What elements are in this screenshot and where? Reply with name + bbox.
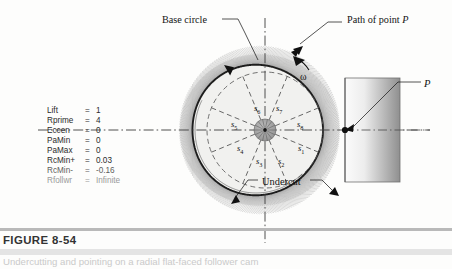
station-label-s5: s5 <box>231 119 237 131</box>
station-label-subscript: 3 <box>259 161 262 168</box>
parameter-equals: = <box>85 126 96 136</box>
parameter-name: RcMin- <box>47 166 85 176</box>
parameter-value: 0 <box>96 136 120 146</box>
parameter-name: Rprime <box>47 116 85 126</box>
parameter-value: 0 <box>96 146 120 156</box>
station-label-s1: s1 <box>298 143 304 155</box>
parameter-name: RcMin+ <box>47 156 85 166</box>
caption-rule <box>0 228 452 231</box>
parameter-table: Lift=1Rprime=4Eccen=0PaMin=0PaMax=0RcMin… <box>47 106 120 186</box>
parameter-name: Eccen <box>47 126 85 136</box>
point-p-label: P <box>424 78 430 89</box>
figure-caption-text: Undercutting and pointing on a radial fl… <box>3 256 303 267</box>
parameter-equals: = <box>85 166 96 176</box>
undercut-label: Undercut <box>262 176 301 187</box>
parameter-name: PaMin <box>47 136 85 146</box>
parameter-value: -0.16 <box>96 166 120 176</box>
parameter-equals: = <box>85 156 96 166</box>
leader-path-of-point <box>300 22 342 44</box>
parameter-equals: = <box>85 136 96 146</box>
parameter-name: Lift <box>47 106 85 116</box>
station-label-subscript: 1 <box>301 148 304 155</box>
station-label-s8: s8 <box>297 119 303 131</box>
cam-parameter-list: Lift=1Rprime=4Eccen=0PaMin=0PaMax=0RcMin… <box>47 86 120 207</box>
parameter-value: 0 <box>96 126 120 136</box>
parameter-row: RcMin-=-0.16 <box>47 166 120 176</box>
base-circle-label: Base circle <box>162 14 207 25</box>
parameter-row: RcMin+=0.03 <box>47 156 120 166</box>
path-of-point-text: Path of point <box>347 14 402 25</box>
parameter-row: Rfollwr=Infinite <box>47 176 120 186</box>
path-of-point-label: Path of point P <box>347 14 408 25</box>
station-label-subscript: 6 <box>257 108 260 115</box>
parameter-value: 1 <box>96 106 120 116</box>
parameter-equals: = <box>85 146 96 156</box>
parameter-row: Rprime=4 <box>47 116 120 126</box>
station-label-subscript: 4 <box>240 148 243 155</box>
parameter-value: Infinite <box>96 176 120 186</box>
station-label-subscript: 8 <box>300 124 303 131</box>
cam-figure: Lift=1Rprime=4Eccen=0PaMin=0PaMax=0RcMin… <box>0 0 452 269</box>
caption-band <box>0 249 452 255</box>
parameter-row: PaMin=0 <box>47 136 120 146</box>
parameter-equals: = <box>85 106 96 116</box>
figure-caption-label: FIGURE 8-54 <box>3 234 76 246</box>
station-label-s3: s3 <box>256 156 262 168</box>
parameter-value: 4 <box>96 116 120 126</box>
parameter-name: PaMax <box>47 146 85 156</box>
station-label-s6: s6 <box>254 103 260 115</box>
parameter-equals: = <box>85 116 96 126</box>
parameter-value: 0.03 <box>96 156 120 166</box>
station-label-subscript: 5 <box>234 124 237 131</box>
cam-center-point <box>263 128 267 132</box>
parameter-row: Eccen=0 <box>47 126 120 136</box>
omega-label: ω <box>300 71 307 82</box>
parameter-row: Lift=1 <box>47 106 120 116</box>
path-of-point-italic-p: P <box>402 14 408 25</box>
station-label-s2: s2 <box>278 156 284 168</box>
station-label-s4: s4 <box>237 143 243 155</box>
station-label-s7: s7 <box>276 103 282 115</box>
parameter-name: Rfollwr <box>47 176 85 186</box>
station-label-subscript: 2 <box>281 161 284 168</box>
station-label-subscript: 7 <box>279 108 282 115</box>
parameter-row: PaMax=0 <box>47 146 120 156</box>
parameter-equals: = <box>85 176 96 186</box>
